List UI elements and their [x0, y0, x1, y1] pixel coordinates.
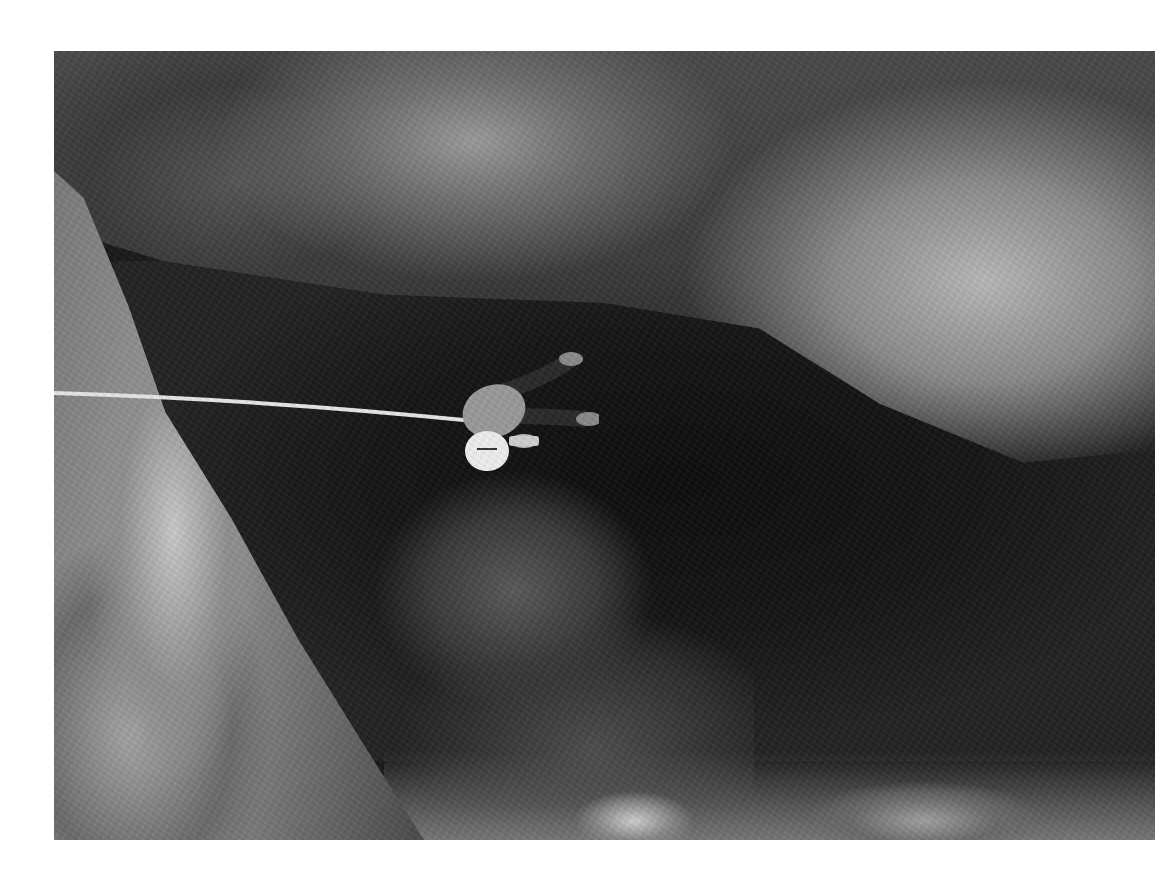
cave-floor-boulders: [384, 751, 1155, 840]
helmet: [465, 431, 509, 471]
shoe: [559, 352, 583, 366]
climber: [409, 341, 599, 491]
cave-rappelling-photo: [54, 51, 1155, 840]
